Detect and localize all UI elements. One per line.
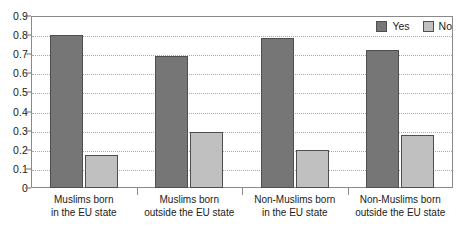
x-axis-label-1: Muslims bornin the EU state [31, 191, 137, 225]
bar-yes-2 [155, 56, 188, 188]
bar-no-3 [296, 150, 329, 188]
y-tick-label: 0.9 [0, 11, 28, 22]
x-axis-label-line1: Muslims born [54, 194, 113, 205]
legend-swatch-no [423, 21, 434, 32]
x-axis-labels: Muslims bornin the EU stateMuslims borno… [31, 191, 453, 225]
legend-label: No [439, 21, 452, 32]
legend-swatch-yes [376, 21, 387, 32]
x-axis-label-line1: Non-Muslims born [254, 194, 335, 205]
x-axis-label-line1: Non-Muslims born [360, 194, 441, 205]
y-tick-label: 0.8 [0, 30, 28, 41]
y-tick-label: 0.6 [0, 68, 28, 79]
x-axis-label-2: Muslims bornoutside the EU state [137, 191, 243, 225]
y-axis: 0.90.80.70.60.50.40.30.20.10 [0, 0, 28, 226]
y-tick-label: 0 [0, 183, 28, 194]
legend-label: Yes [392, 21, 409, 32]
x-axis-label-line2: outside the EU state [137, 207, 243, 220]
bar-no-4 [401, 135, 434, 188]
y-tick-label: 0.1 [0, 164, 28, 175]
y-tick-label: 0.3 [0, 125, 28, 136]
x-axis-label-line1: Muslims born [160, 194, 219, 205]
x-axis-label-line2: outside the EU state [348, 207, 454, 220]
legend-item-no: No [423, 21, 452, 32]
bars-layer [31, 16, 453, 188]
y-tick-label: 0.5 [0, 87, 28, 98]
x-axis-label-3: Non-Muslims bornin the EU state [242, 191, 348, 225]
bar-yes-4 [366, 50, 399, 188]
bar-yes-1 [50, 35, 83, 188]
x-axis-label-line2: in the EU state [242, 207, 348, 220]
bar-yes-3 [261, 38, 294, 188]
bar-no-1 [85, 155, 118, 188]
x-axis-label-line2: in the EU state [31, 207, 137, 220]
y-tick-label: 0.7 [0, 49, 28, 60]
y-tick-label: 0.2 [0, 145, 28, 156]
legend-item-yes: Yes [376, 21, 409, 32]
x-axis-label-4: Non-Muslims bornoutside the EU state [348, 191, 454, 225]
bar-no-2 [190, 132, 223, 188]
bar-chart: 0.90.80.70.60.50.40.30.20.10 Muslims bor… [0, 0, 461, 226]
legend: YesNo [373, 20, 455, 33]
y-tick-label: 0.4 [0, 106, 28, 117]
